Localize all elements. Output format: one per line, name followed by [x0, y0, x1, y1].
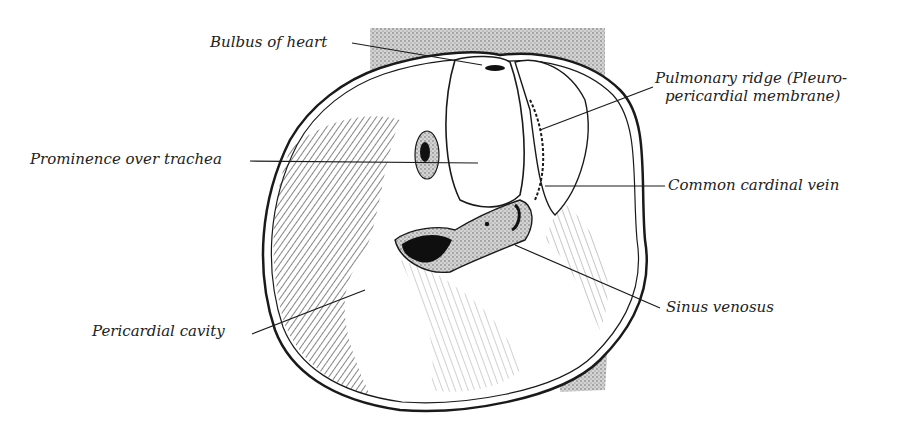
label-sinus-venosus: Sinus venosus	[666, 299, 774, 316]
label-bulbus-of-heart: Bulbus of heart	[210, 34, 327, 51]
label-pleuropericardial-membrane: pericardial membrane)	[665, 88, 840, 105]
label-prominence-over-trachea: Prominence over trachea	[30, 151, 222, 168]
heart-illustration	[0, 0, 917, 428]
label-pulmonary-ridge: Pulmonary ridge (Pleuro-	[655, 70, 847, 87]
anatomical-figure: Bulbus of heart Pulmonary ridge (Pleuro-…	[0, 0, 917, 428]
label-common-cardinal-vein: Common cardinal vein	[668, 177, 839, 194]
label-pericardial-cavity: Pericardial cavity	[92, 323, 225, 340]
bulbus-shape	[446, 56, 524, 207]
